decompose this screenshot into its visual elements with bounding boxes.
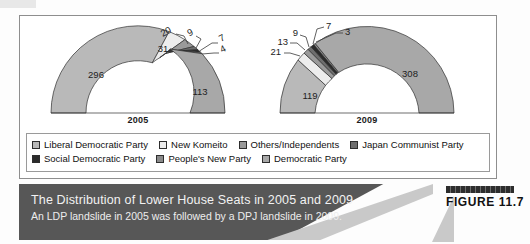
legend-item-new-komeito[interactable]: New Komeito [159,139,228,151]
legend-item-label: New Komeito [171,139,228,151]
label-dpj-2009: 308 [402,68,418,79]
legend-item-japan-communist-party[interactable]: Japan Communist Party [350,139,463,151]
label-ldp-2005: 296 [88,69,104,80]
legend-swatch-icon [159,141,167,149]
label-jcp-2009: 9 [293,27,298,38]
label-sdp-2009: 7 [326,20,331,31]
caption-title: The Distribution of Lower House Seats in… [31,192,353,208]
legend-swatch-icon [262,155,270,163]
legend-swatch-icon [32,155,40,163]
slice-dpj-2005 [170,49,225,113]
legend-swatch-icon [156,155,164,163]
chart-2009-svg: 119 308 21 13 9 [262,20,472,128]
legend-item-social-democratic-party[interactable]: Social Democratic Party [32,153,145,165]
scan-artifact [0,0,36,8]
chart-2005-year: 2005 [38,115,238,125]
legend-row: Social Democratic Party People's New Par… [32,152,484,166]
figure-root: 296 31 113 20 9 7 [0,0,530,244]
figure-number-block: FIGURE 11.7 [446,186,520,209]
chart-2005-svg: 296 31 113 20 9 7 [38,20,238,128]
legend-item-label: Japan Communist Party [362,139,463,151]
chart-2009-year: 2009 [262,115,472,125]
legend-item-label: Democratic Party [274,153,347,165]
legend-swatch-icon [350,141,358,149]
legend-item-democratic-party[interactable]: Democratic Party [262,153,347,165]
figure-rule-decoration [446,186,514,193]
caption-subtitle: An LDP landslide in 2005 was followed by… [31,209,353,224]
legend-item-label: Social Democratic Party [44,153,145,165]
label-pnp-2009: 3 [345,26,350,37]
chart-panel: 296 31 113 20 9 7 [19,15,497,179]
legend-row: Liberal Democratic Party New Komeito Oth… [32,138,484,152]
label-jcp-2005: 9 [185,26,195,38]
legend-item-label: People's New Party [168,153,251,165]
slice-ldp-2005 [51,26,169,113]
legend-item-label: Others/Independents [251,139,340,151]
charts-area: 296 31 113 20 9 7 [20,16,496,134]
chart-2009: 119 308 21 13 9 [262,20,472,128]
chart-2005-slices [51,26,225,113]
legend: Liberal Democratic Party New Komeito Oth… [26,133,490,172]
legend-item-peoples-new-party[interactable]: People's New Party [156,153,251,165]
legend-item-label: Liberal Democratic Party [44,139,148,151]
caption-band: The Distribution of Lower House Seats in… [19,184,433,240]
label-pnp-2005: 4 [218,43,228,55]
label-dpj-2005: 113 [192,86,207,97]
legend-swatch-icon [32,141,40,149]
figure-number-label: FIGURE 11.7 [446,195,520,209]
label-others-2009: 13 [277,36,288,47]
legend-item-liberal-democratic-party[interactable]: Liberal Democratic Party [32,139,148,151]
label-ldp-2009: 119 [302,90,317,101]
chart-2005: 296 31 113 20 9 7 [38,20,238,128]
legend-item-others-independents[interactable]: Others/Independents [239,139,340,151]
label-komeito-2005: 31 [158,43,169,54]
label-komeito-2009: 21 [270,46,281,57]
legend-swatch-icon [239,141,247,149]
caption-text-group: The Distribution of Lower House Seats in… [31,192,353,224]
